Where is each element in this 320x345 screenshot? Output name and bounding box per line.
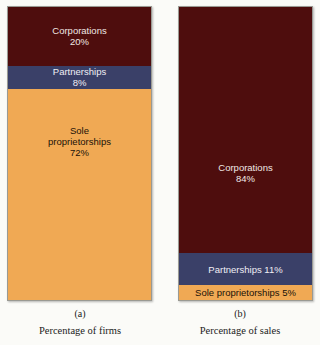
segment-label-corporations-firms: Corporations 20% bbox=[49, 25, 109, 47]
segment-partnerships-sales: Partnerships 11% bbox=[179, 253, 312, 285]
panel-b-caption: Percentage of sales bbox=[160, 325, 320, 336]
segment-label-sole-proprietorships-sales: Sole proprietorships 5% bbox=[192, 287, 299, 298]
segment-corporations-firms: Corporations 20% bbox=[8, 7, 151, 66]
panel-b-letter: (b) bbox=[160, 308, 320, 319]
stacked-bar-sales: Corporations 84% Partnerships 11% Sole p… bbox=[178, 6, 313, 301]
panel-a-caption: Percentage of firms bbox=[0, 325, 160, 336]
segment-label-partnerships-firms: Partnerships 8% bbox=[50, 66, 109, 88]
segment-label-sole-proprietorships-firms: Sole proprietorships 72% bbox=[8, 125, 151, 159]
panel-b: Corporations 84% Partnerships 11% Sole p… bbox=[160, 0, 320, 345]
segment-label-partnerships-sales: Partnerships 11% bbox=[205, 264, 285, 275]
segment-sole-proprietorships-firms: Sole proprietorships 72% bbox=[8, 89, 151, 300]
stacked-bar-figure: Corporations 20% Partnerships 8% Sole pr… bbox=[0, 0, 320, 345]
segment-sole-proprietorships-sales: Sole proprietorships 5% bbox=[179, 285, 312, 300]
segment-partnerships-firms: Partnerships 8% bbox=[8, 66, 151, 89]
segment-corporations-sales: Corporations 84% bbox=[179, 7, 312, 253]
segment-label-corporations-sales: Corporations 84% bbox=[179, 162, 312, 184]
stacked-bar-firms: Corporations 20% Partnerships 8% Sole pr… bbox=[7, 6, 152, 301]
panel-a: Corporations 20% Partnerships 8% Sole pr… bbox=[0, 0, 160, 345]
panel-a-letter: (a) bbox=[0, 308, 160, 319]
